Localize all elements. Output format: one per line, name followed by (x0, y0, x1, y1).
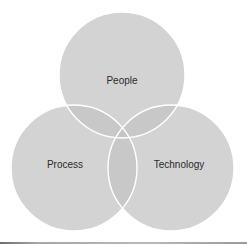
people-label: People (106, 75, 138, 86)
venn-diagram: People Process Technology (0, 0, 247, 245)
bottom-divider (0, 242, 247, 244)
technology-label: Technology (154, 159, 205, 170)
process-label: Process (47, 159, 83, 170)
venn-circles (11, 12, 234, 231)
